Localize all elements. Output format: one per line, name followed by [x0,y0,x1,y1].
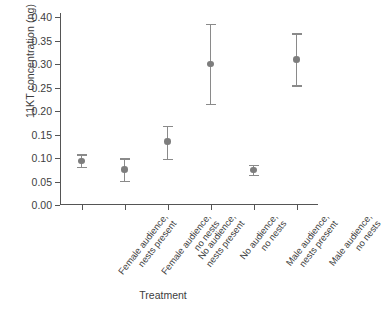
error-bar-cap-lower [249,175,259,176]
x-tick-mark [125,205,126,210]
y-tick-mark [55,17,60,18]
y-tick-mark [55,88,60,89]
x-axis-line [60,204,318,205]
y-tick-mark [55,111,60,112]
data-point-marker [207,61,214,68]
data-point-marker [250,167,257,174]
y-tick-label: 0.40 [32,11,52,23]
plot-area: 0.000.050.100.150.200.250.300.350.40 [60,17,318,205]
y-tick-mark [55,205,60,206]
error-bar-cap-upper [292,33,302,34]
data-point-marker [293,56,300,63]
error-bar-cap-lower [120,181,130,182]
y-tick-label: 0.00 [32,199,52,211]
error-bar-cap-upper [206,24,216,25]
y-tick-mark [55,64,60,65]
x-tick-mark [297,205,298,210]
y-tick-label: 0.05 [32,176,52,188]
data-point-marker [121,166,128,173]
y-tick-label: 0.25 [32,82,52,94]
y-axis-line [60,13,61,205]
y-tick-label: 0.10 [32,152,52,164]
error-bar-cap-upper [163,126,173,127]
y-tick-label: 0.35 [32,35,52,47]
data-point-marker [164,138,171,145]
error-bar-cap-upper [120,158,130,159]
error-bar-cap-upper [77,154,87,155]
y-tick-label: 0.20 [32,105,52,117]
error-bar-cap-lower [292,85,302,86]
y-tick-mark [55,135,60,136]
x-axis-title: Treatment [0,289,326,301]
x-tick-mark [168,205,169,210]
y-tick-mark [55,182,60,183]
error-bar-cap-upper [249,165,259,166]
y-tick-label: 0.15 [32,129,52,141]
y-tick-mark [55,41,60,42]
error-bar-cap-lower [77,167,87,168]
x-tick-mark [254,205,255,210]
error-bar-cap-lower [163,159,173,160]
x-tick-mark [211,205,212,210]
y-tick-label: 0.30 [32,58,52,70]
y-tick-mark [55,158,60,159]
x-tick-label: No audience,no nests [238,212,288,268]
error-bar-cap-lower [206,104,216,105]
data-point-marker [78,158,85,165]
x-tick-mark [82,205,83,210]
